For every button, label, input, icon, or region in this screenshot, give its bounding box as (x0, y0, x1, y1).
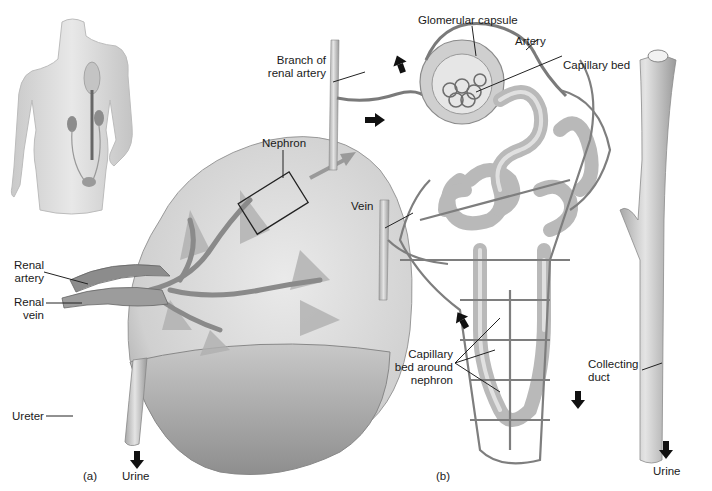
label-capillary-bed: Capillary bed (563, 59, 630, 72)
left-kidney-icon (67, 116, 77, 132)
label-collecting-duct: Collecting duct (588, 358, 639, 384)
kidney-cross-section (62, 137, 412, 475)
label-artery: Artery (515, 35, 546, 48)
label-renal-artery: Renal artery (2, 259, 44, 285)
label-renal-vein: Renal vein (2, 296, 44, 322)
label-vein: Vein (351, 200, 373, 213)
label-nephron: Nephron (262, 137, 306, 150)
right-kidney-icon (94, 110, 104, 126)
bladder-icon (82, 177, 96, 187)
arrow-down-icon (571, 391, 585, 409)
panel-a-tag: (a) (83, 470, 97, 483)
label-capillary-bed-around-nephron: Capillary bed around nephron (380, 348, 453, 387)
label-ureter: Ureter (12, 410, 44, 423)
label-urine-a: Urine (122, 470, 149, 483)
label-urine-b: Urine (653, 465, 680, 478)
arrow-up-icon (390, 53, 409, 75)
label-glomerular-capsule: Glomerular capsule (418, 14, 518, 27)
kidney-nephron-diagram (0, 0, 712, 491)
arrow-down-icon (130, 451, 144, 469)
arrow-right-icon (365, 113, 385, 127)
human-body-inset (11, 19, 132, 214)
panel-b-tag: (b) (436, 470, 450, 483)
collecting-duct (620, 56, 676, 463)
ureter (125, 358, 147, 446)
label-branch-of-renal-artery: Branch of renal artery (262, 54, 326, 80)
heart-icon (84, 62, 100, 94)
